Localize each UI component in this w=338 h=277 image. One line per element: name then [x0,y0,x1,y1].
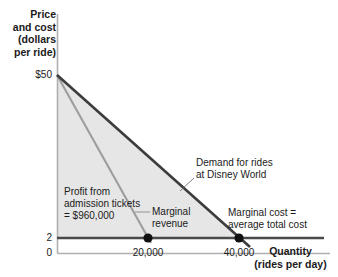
x-axis-title-sub: (rides per day) [254,258,326,270]
chart-figure: Price and cost (dollars per ride) Quanti… [0,0,338,277]
profit-annotation-label: Profit from admission tickets = $960,000 [64,186,140,222]
y-tick-label-0: 0 [6,247,52,259]
demand-annotation-label: Demand for rides at Disney World [196,157,273,181]
marginal-revenue-point-marker [143,233,152,242]
marginal-revenue-annotation-label: Marginal revenue [152,206,190,230]
marginal-cost-annotation-label: Marginal cost = average total cost [228,207,307,231]
y-tick-label-50: $50 [6,69,52,81]
y-tick-label-2: 2 [6,232,52,244]
demand-label-leader-line [180,178,194,191]
x-tick-label-40000: 40,000 [209,247,269,259]
x-tick-label-20000: 20,000 [118,247,178,259]
x-axis-title-main: Quantity [269,245,312,257]
demand-mc-intersection-marker [234,233,243,242]
y-axis-title: Price and cost (dollars per ride) [0,8,56,58]
